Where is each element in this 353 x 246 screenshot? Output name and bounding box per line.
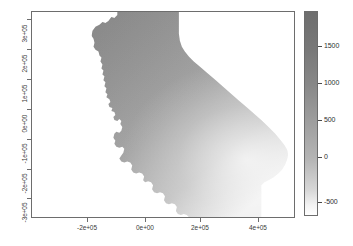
colorbar-tick-mark [318,202,322,203]
x-axis-tick-label: 0e+00 [130,224,160,231]
colorbar-tick-label: 500 [324,116,335,123]
colorbar-legend [304,11,318,216]
x-tick-mark [258,218,259,222]
y-tick-mark [27,169,31,170]
colorbar-tick-label: 1000 [324,79,339,86]
y-axis-tick-label: 0e+00 [21,110,28,138]
y-tick-mark [27,49,31,50]
y-axis-tick-label: 1e+05 [21,80,28,108]
y-axis-tick-label: 3e+05 [21,20,28,48]
y-axis-tick-label: 2e+05 [21,50,28,78]
x-axis-tick-label: 2e+05 [185,224,215,231]
y-tick-mark [27,139,31,140]
california-raster-svg [32,12,294,217]
figure-container: -3e+05 -2e+05 -1e+05 0e+00 1e+05 2e+05 3… [0,0,353,246]
colorbar-tick-label: 1500 [324,42,339,49]
y-axis-tick-label: -1e+05 [21,140,28,168]
colorbar-tick-mark [318,46,322,47]
colorbar-tick-mark [318,120,322,121]
colorbar-tick-mark [318,83,322,84]
y-tick-mark [27,79,31,80]
colorbar-gradient [305,12,317,215]
x-tick-mark [200,218,201,222]
x-axis-tick-label: -2e+05 [72,224,102,231]
y-axis-tick-label: -2e+05 [21,170,28,198]
y-tick-mark [27,19,31,20]
plot-panel [31,11,295,218]
y-tick-mark [27,109,31,110]
colorbar-tick-label: -500 [324,198,338,205]
raster-surface-layer [32,12,294,217]
colorbar-tick-mark [318,157,322,158]
interpolated-surface [32,12,294,217]
y-axis-tick-label: -3e+05 [21,199,28,227]
x-tick-mark [145,218,146,222]
x-tick-mark [87,218,88,222]
y-tick-mark [27,198,31,199]
x-axis-tick-label: 4e+05 [243,224,273,231]
colorbar-tick-label: 0 [324,153,328,160]
